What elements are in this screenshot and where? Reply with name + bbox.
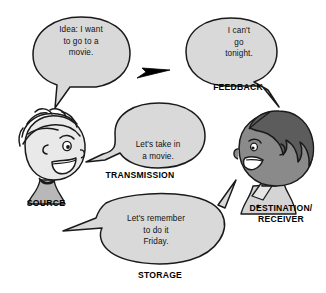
bubble-idea-shape [33, 17, 130, 108]
speech-bubble-idea [33, 17, 130, 108]
label-transmission: TRANSMISSION [78, 170, 202, 181]
label-destination-receiver: DESTINATION/ RECEIVER [236, 203, 326, 224]
speech-bubble-feedback [186, 18, 279, 107]
speech-bubble-transmission [86, 103, 205, 168]
diagram-illustration [0, 0, 326, 293]
speech-bubble-storage [63, 180, 236, 264]
character-destination [234, 111, 313, 214]
destination-ear [234, 149, 239, 159]
bubble-storage-shape [63, 180, 236, 264]
arrow-head [137, 68, 170, 78]
label-source: SOURCE [6, 198, 86, 209]
destination-pupil [251, 146, 254, 149]
label-feedback: FEEDBACK [194, 82, 282, 93]
communication-model-diagram: Idea: I want to go to a movie. I can't g… [0, 0, 326, 293]
feedback-arrow-icon [137, 68, 170, 78]
character-source [19, 109, 85, 204]
bubble-feedback-shape [186, 18, 279, 107]
bubble-transmission-shape [86, 103, 205, 168]
label-storage: STORAGE [112, 270, 208, 281]
source-pupil [66, 145, 70, 149]
